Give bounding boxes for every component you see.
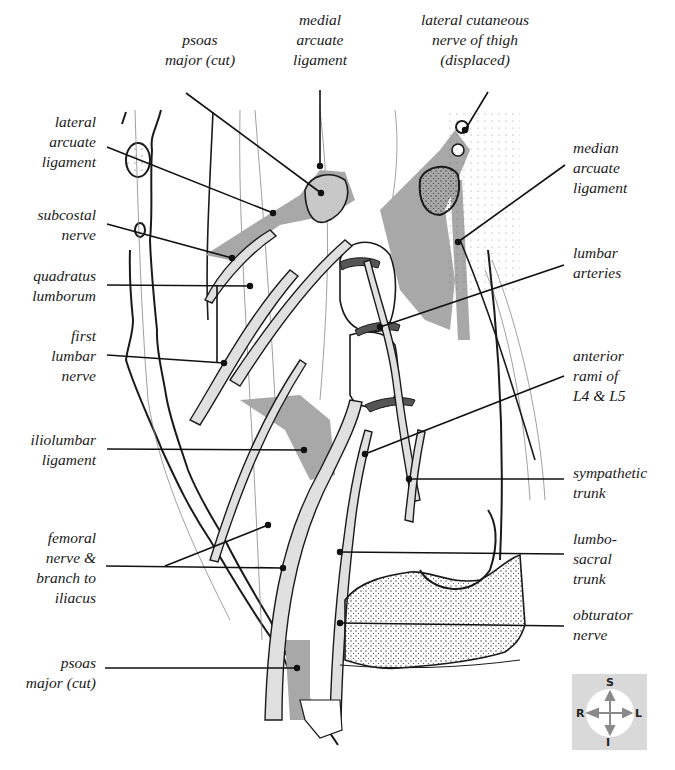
lateral-cutaneous-shape <box>210 360 306 562</box>
leader-lateral-arcuate-ligament <box>107 147 273 213</box>
leader-anterior-rami-of-l4-l5-dot <box>363 452 368 457</box>
lumbosacral-trunk-shape <box>330 430 372 720</box>
label-anterior-rami-of-l4-l5: anterior rami of L4 & L5 <box>573 346 673 406</box>
label-lumbo-sacral-trunk: lumbo- sacral trunk <box>573 529 673 589</box>
label-obturator-nerve: obturator nerve <box>573 605 673 645</box>
label-femoral-nerve-branch-to-iliacus: femoral nerve & branch to iliacus <box>0 528 96 608</box>
label-psoas-major-cut-bottom: psoas major (cut) <box>0 653 96 693</box>
leader-psoas-major-cut-top <box>186 93 321 193</box>
compass-inferior: I <box>606 736 610 749</box>
leader-lateral-cutaneous-nerve-of-thigh-dot <box>463 128 468 133</box>
leader-iliolumbar-ligament-dot <box>302 448 307 453</box>
label-median-arcuate-ligament: median arcuate ligament <box>573 138 673 198</box>
leader-first-lumbar-nerve <box>107 355 224 363</box>
leader-subcostal-nerve <box>107 224 232 258</box>
leader-median-arcuate-ligament-dot <box>456 240 461 245</box>
leader-quadratus-lumborum-dot <box>248 284 253 289</box>
leader-medial-arcuate-ligament-dot <box>318 164 323 169</box>
quadratus-nerve-shape <box>230 240 352 386</box>
leader-obturator-nerve-dot <box>338 621 343 626</box>
orientation-compass: S I R L <box>572 674 647 750</box>
leader-lateral-arcuate-ligament-dot <box>271 211 276 216</box>
compass-left: L <box>635 707 642 720</box>
anatomy-figure: psoas major (cut)medial arcuate ligament… <box>0 0 675 770</box>
label-first-lumbar-nerve: first lumbar nerve <box>0 326 96 386</box>
label-sympathetic-trunk: sympathetic trunk <box>573 463 673 503</box>
leader-femoral-nerve-branch-to-iliacus-dot <box>281 566 286 571</box>
psoas-cut-top <box>305 175 348 223</box>
label-lumbar-arteries: lumbar arteries <box>573 243 673 283</box>
leader-lumbo-sacral-trunk <box>340 552 564 554</box>
leader-first-lumbar-nerve-dot <box>222 361 227 366</box>
sacrum-region <box>345 555 525 668</box>
leader-sympathetic-trunk-dot <box>407 477 412 482</box>
label-psoas-major-cut-top: psoas major (cut) <box>140 30 260 70</box>
leader-iliolumbar-ligament <box>107 449 304 450</box>
leader-quadratus-lumborum <box>107 285 250 286</box>
compass-superior: S <box>606 676 614 689</box>
leader-femoral-nerve-branch-to-iliacus-branch-dot <box>266 523 271 528</box>
leader-psoas-major-cut-bottom-dot <box>295 666 300 671</box>
label-medial-arcuate-ligament: medial arcuate ligament <box>280 10 360 70</box>
label-iliolumbar-ligament: iliolumbar ligament <box>0 430 96 470</box>
leader-lumbo-sacral-trunk-dot <box>338 550 343 555</box>
label-subcostal-nerve: subcostal nerve <box>0 205 96 245</box>
label-lateral-cutaneous-nerve-of-thigh: lateral cutaneous nerve of thigh (displa… <box>395 10 555 70</box>
rib-ovals <box>126 143 150 237</box>
leader-lumbar-arteries-dot <box>378 325 383 330</box>
leader-psoas-major-cut-top-dot <box>319 191 324 196</box>
stipple-region <box>445 110 520 290</box>
leader-femoral-nerve-branch-to-iliacus <box>106 566 283 568</box>
label-quadratus-lumborum: quadratus lumborum <box>0 266 96 306</box>
leader-subcostal-nerve-dot <box>230 256 235 261</box>
label-lateral-arcuate-ligament: lateral arcuate ligament <box>0 112 96 172</box>
compass-right: R <box>576 707 584 720</box>
